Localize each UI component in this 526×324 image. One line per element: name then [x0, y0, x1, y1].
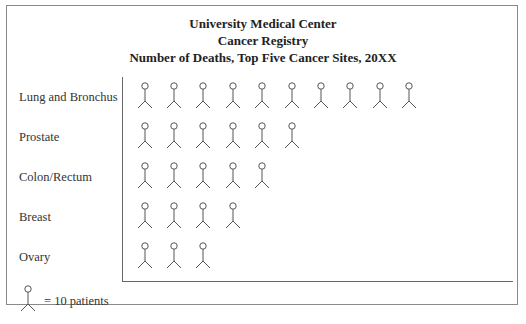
chart-title-line1: University Medical Center [0, 16, 526, 32]
row-icons-prostate [130, 121, 306, 151]
stick-figure-icon [130, 201, 159, 231]
stick-figure-icon [218, 81, 247, 111]
stick-figure-icon [159, 241, 188, 271]
row-label-prostate: Prostate [19, 130, 59, 145]
row-label-lung: Lung and Bronchus [19, 90, 118, 105]
stick-figure-icon [189, 161, 218, 191]
row-label-colon-rectum: Colon/Rectum [19, 170, 92, 185]
row-label-ovary: Ovary [19, 250, 50, 265]
stick-figure-icon [336, 81, 365, 111]
stick-figure-icon [130, 161, 159, 191]
stick-figure-icon [159, 161, 188, 191]
stick-figure-icon [365, 81, 394, 111]
stick-figure-icon [248, 161, 277, 191]
stick-figure-icon [18, 284, 38, 318]
stick-figure-icon [130, 81, 159, 111]
stick-figure-icon [189, 121, 218, 151]
stick-figure-icon [130, 121, 159, 151]
chart-title-line2: Cancer Registry [0, 33, 526, 49]
row-icons-breast [130, 201, 248, 231]
stick-figure-icon [189, 241, 218, 271]
stick-figure-icon [130, 241, 159, 271]
stick-figure-icon [395, 81, 424, 111]
stick-figure-icon [218, 121, 247, 151]
stick-figure-icon [218, 161, 247, 191]
stick-figure-icon [277, 81, 306, 111]
stick-figure-icon [189, 81, 218, 111]
stick-figure-icon [306, 81, 335, 111]
row-icons-ovary [130, 241, 218, 271]
legend-label: = 10 patients [44, 294, 109, 309]
stick-figure-icon [218, 201, 247, 231]
stick-figure-icon [248, 81, 277, 111]
row-icons-lung [130, 81, 424, 111]
stick-figure-icon [159, 201, 188, 231]
stick-figure-icon [159, 81, 188, 111]
legend: = 10 patients [18, 284, 109, 318]
y-axis-line [122, 77, 123, 282]
x-axis-line [122, 281, 513, 282]
stick-figure-icon [277, 121, 306, 151]
chart-title-line3: Number of Deaths, Top Five Cancer Sites,… [0, 50, 526, 66]
stick-figure-icon [159, 121, 188, 151]
stick-figure-icon [189, 201, 218, 231]
row-label-breast: Breast [19, 210, 51, 225]
row-icons-colon-rectum [130, 161, 277, 191]
stick-figure-icon [248, 121, 277, 151]
